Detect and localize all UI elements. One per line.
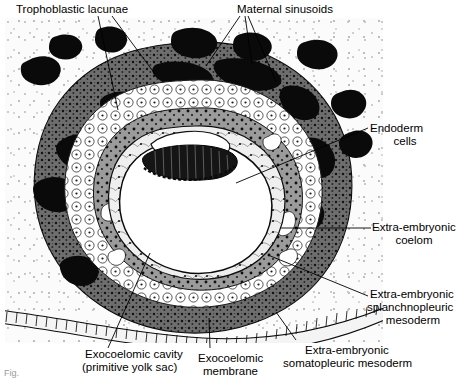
label-exocoelomic-cavity-line1: Exocoelomic cavity: [85, 348, 183, 361]
label-trophoblastic-lacunae: Trophoblastic lacunae: [16, 3, 128, 16]
label-endoderm-cells-line2: cells: [370, 135, 440, 148]
label-splanchnopleuric-line3: mesoderm: [370, 314, 456, 327]
figure-caption-fragment: Fig.: [4, 368, 19, 378]
label-exocoelomic-cavity-line2: (primitive yolk sac): [82, 361, 177, 374]
figure-panel: Trophoblastic lacunae Maternal sinusoids…: [0, 0, 459, 384]
label-somatopleuric-line1: Extra-embryonic: [305, 344, 389, 357]
label-somatopleuric-line2: somatopleuric mesoderm: [283, 357, 412, 370]
label-maternal-sinusoids: Maternal sinusoids: [237, 3, 333, 16]
label-splanchnopleuric-line2: splanchnopleuric: [367, 301, 453, 314]
label-splanchnopleuric-line1: Extra-embryonic: [370, 288, 454, 301]
label-endoderm-cells-line1: Endoderm: [370, 122, 456, 135]
label-exocoelomic-membrane-line2: membrane: [203, 365, 258, 378]
label-exocoelom-line2: coelom: [372, 234, 456, 247]
label-exocoelomic-membrane-line1: Exocoelomic: [198, 352, 263, 365]
label-exocoelom-line1: Extra-embryonic: [372, 221, 456, 234]
